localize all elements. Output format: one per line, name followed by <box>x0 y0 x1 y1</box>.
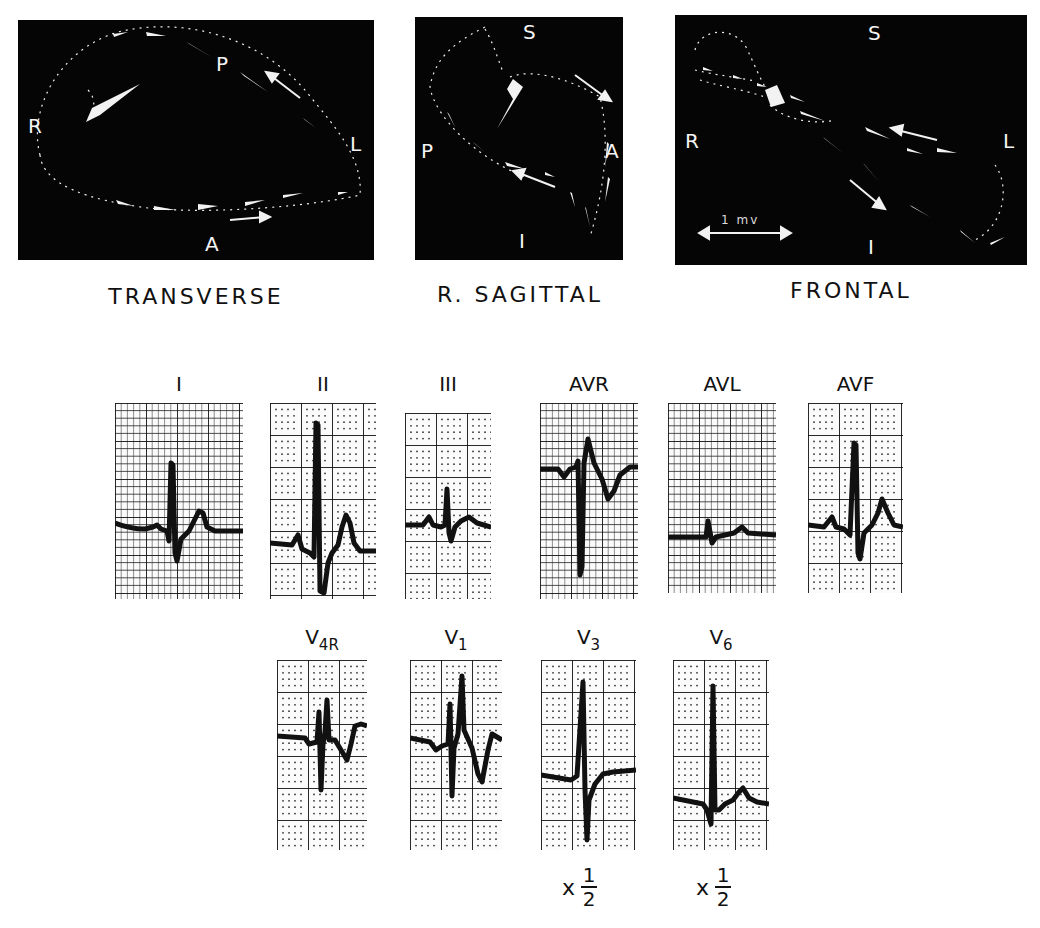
lead-i-strip <box>115 403 243 599</box>
lead-v1-label-subscript: 1 <box>458 636 468 654</box>
lead-ii-waveform <box>270 403 376 599</box>
frontal-scale-bar-label: 1 mv <box>721 213 759 227</box>
lead-v3-label: V3 <box>541 625 636 654</box>
lead-i-waveform <box>115 403 243 599</box>
lead-v3-scale-numerator: 1 <box>583 865 596 885</box>
lead-v6-scale-note: x 1 2 <box>696 865 731 909</box>
lead-v6-label-subscript: 6 <box>723 636 733 654</box>
frontal-axis-right-label: L <box>1003 131 1014 151</box>
lead-v3-strip <box>541 660 636 850</box>
transverse-axis-bottom-label: A <box>205 234 219 254</box>
sagittal-vcg-panel: S P A I <box>415 17 623 260</box>
lead-v3-label-subscript: 3 <box>591 636 601 654</box>
sagittal-loop-trace <box>415 17 623 260</box>
lead-iii-label: III <box>405 372 491 396</box>
lead-v4r-label: V4R <box>277 625 367 654</box>
lead-avf-label: AVF <box>808 372 903 396</box>
lead-ii-strip <box>270 403 376 599</box>
frontal-axis-bottom-label: I <box>868 237 874 257</box>
lead-v3-scale-prefix: x <box>562 875 575 900</box>
lead-v4r-label-main: V <box>305 625 319 649</box>
transverse-loop-trace <box>18 20 374 260</box>
lead-avr-label: AVR <box>540 372 638 396</box>
frontal-loop-trace <box>675 15 1027 265</box>
lead-v3-label-main: V <box>577 625 591 649</box>
sagittal-axis-bottom-label: I <box>519 231 525 251</box>
lead-v3-scale-note: x 1 2 <box>562 865 597 909</box>
lead-v4r-waveform <box>277 660 367 850</box>
lead-v4r-label-subscript: 4R <box>319 636 339 654</box>
transverse-axis-right-label: L <box>350 134 361 154</box>
lead-v1-strip <box>410 660 502 850</box>
frontal-vcg-panel: 1 mv S R L I <box>675 15 1027 265</box>
frontal-title: FRONTAL <box>675 278 1027 303</box>
lead-avr-waveform <box>540 403 638 599</box>
lead-v6-scale-prefix: x <box>696 875 709 900</box>
lead-avl-label: AVL <box>668 372 776 396</box>
lead-v3-scale-denominator: 2 <box>583 889 596 909</box>
lead-avf-strip <box>808 403 903 593</box>
lead-v6-strip <box>673 660 769 850</box>
frontal-axis-top-label: S <box>868 23 881 43</box>
lead-avf-waveform <box>808 403 903 593</box>
transverse-title: TRANSVERSE <box>18 284 374 309</box>
lead-avl-waveform <box>668 403 776 593</box>
lead-iii-strip <box>405 413 491 599</box>
lead-ii-label: II <box>270 372 376 396</box>
transverse-axis-top-label: P <box>216 54 228 74</box>
sagittal-title: R. SAGITTAL <box>395 282 645 307</box>
sagittal-axis-right-label: A <box>605 141 619 161</box>
frontal-axis-left-label: R <box>685 131 699 151</box>
lead-v6-label: V6 <box>673 625 769 654</box>
lead-v6-scale-fraction: 1 2 <box>715 865 731 909</box>
transverse-axis-left-label: R <box>28 116 42 136</box>
lead-v6-waveform <box>673 660 769 850</box>
lead-avr-strip <box>540 403 638 599</box>
lead-iii-waveform <box>405 413 491 599</box>
sagittal-axis-left-label: P <box>421 141 433 161</box>
lead-v3-waveform <box>541 660 636 850</box>
lead-v1-waveform <box>410 660 502 850</box>
sagittal-axis-top-label: S <box>523 22 536 42</box>
lead-v6-label-main: V <box>709 625 723 649</box>
transverse-vcg-panel: P R L A <box>18 20 374 260</box>
lead-avl-strip <box>668 403 776 593</box>
lead-v4r-strip <box>277 660 367 850</box>
lead-v6-scale-denominator: 2 <box>717 889 730 909</box>
lead-v1-label: V1 <box>410 625 502 654</box>
lead-v6-scale-numerator: 1 <box>717 865 730 885</box>
lead-i-label: I <box>115 372 243 396</box>
lead-v1-label-main: V <box>444 625 458 649</box>
lead-v3-scale-fraction: 1 2 <box>581 865 597 909</box>
